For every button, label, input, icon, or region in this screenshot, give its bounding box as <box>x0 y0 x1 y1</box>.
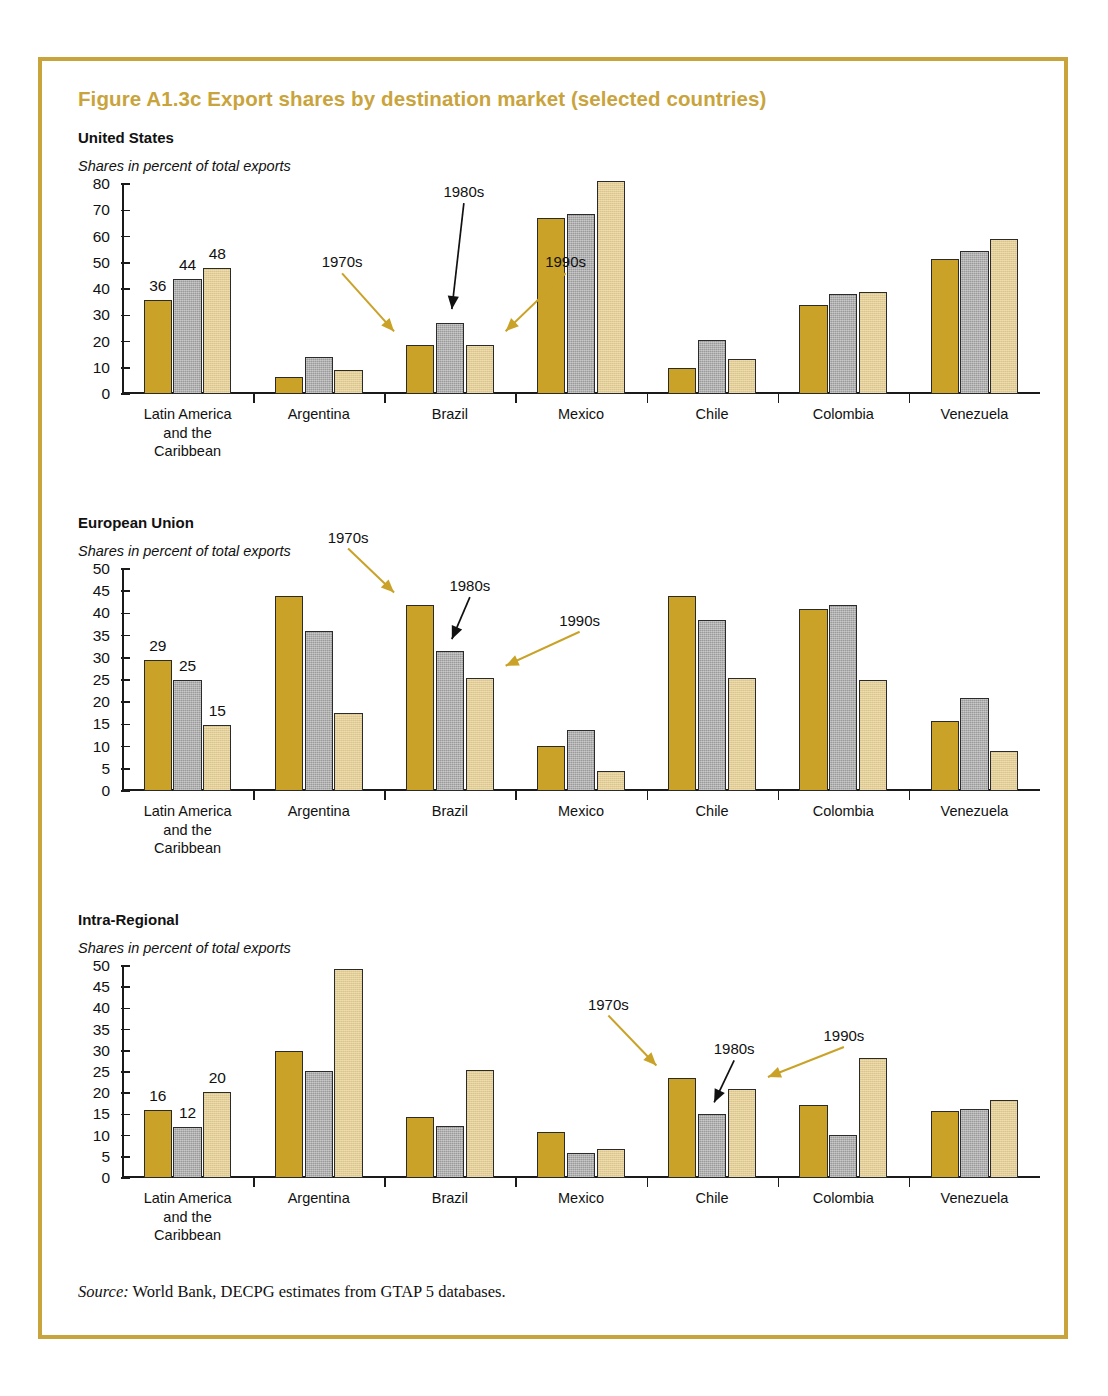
bar-1990s-venezuela <box>990 1100 1018 1178</box>
x-axis-group-separator <box>778 1178 780 1187</box>
x-axis-category-label: Venezuela <box>941 1189 1009 1208</box>
y-axis-tick <box>121 1029 130 1031</box>
x-axis-category-label: Colombia <box>813 802 874 821</box>
y-axis-tick <box>121 262 130 264</box>
bar-1970s-latin-america <box>144 1110 172 1178</box>
bar-1980s-argentina <box>305 357 333 394</box>
y-axis-tick-label: 20 <box>93 1084 110 1102</box>
bar-1970s-chile <box>668 596 696 791</box>
x-axis-category-label: Argentina <box>288 802 350 821</box>
chart-united-states: 364448 Latin America and the CaribbeanAr… <box>78 184 1040 394</box>
bar-1990s-chile <box>728 1089 756 1178</box>
bar-1990s-mexico <box>597 771 625 791</box>
x-axis-category-label: Latin America and the Caribbean <box>144 1189 232 1245</box>
x-axis-category-label: Venezuela <box>941 802 1009 821</box>
bar-1970s-brazil <box>406 345 434 394</box>
y-axis-tick-label: 40 <box>93 999 110 1017</box>
y-axis-tick <box>121 724 130 726</box>
bar-1990s-argentina <box>334 713 362 791</box>
y-axis-tick-label: 10 <box>93 738 110 756</box>
y-axis-tick-label: 35 <box>93 627 110 645</box>
x-axis-category-label: Mexico <box>558 802 604 821</box>
y-axis-tick-label: 0 <box>101 1169 110 1187</box>
x-axis-category-label: Mexico <box>558 1189 604 1208</box>
bar-1970s-chile <box>668 368 696 394</box>
x-axis-category-label: Latin America and the Caribbean <box>144 802 232 858</box>
source-text: World Bank, DECPG estimates from GTAP 5 … <box>129 1282 506 1301</box>
plot-area: 161220 Latin America and the CaribbeanAr… <box>122 966 1040 1178</box>
panel-title: Intra-Regional <box>78 911 1040 928</box>
bar-1970s-chile <box>668 1078 696 1178</box>
bar-1980s-brazil <box>436 1126 464 1178</box>
y-axis-tick <box>121 635 130 637</box>
x-axis-category-label: Mexico <box>558 405 604 424</box>
panel-united-states: United States Shares in percent of total… <box>78 129 1040 394</box>
plot-area: 292515 Latin America and the CaribbeanAr… <box>122 569 1040 791</box>
bar-1980s-latin-america <box>173 1127 201 1178</box>
annotation-1980s: 1980s <box>714 1040 755 1057</box>
figure-title: Figure A1.3c Export shares by destinatio… <box>78 87 1040 111</box>
bar-1970s-argentina <box>275 377 303 394</box>
y-axis-tick-label: 5 <box>101 1148 110 1166</box>
bar-1980s-brazil <box>436 651 464 791</box>
y-axis-tick <box>121 1156 130 1158</box>
y-axis-tick <box>121 393 130 395</box>
bar-1990s-venezuela <box>990 751 1018 791</box>
x-axis-group-separator <box>647 1178 649 1187</box>
y-axis-tick-label: 5 <box>101 760 110 778</box>
bar-1990s-latin-america <box>203 725 231 791</box>
annotation-1990s: 1990s <box>559 612 600 629</box>
bar-1990s-chile <box>728 359 756 394</box>
source-note: Source: World Bank, DECPG estimates from… <box>78 1282 1040 1302</box>
bar-1970s-colombia <box>799 609 827 791</box>
bar-1970s-colombia <box>799 1105 827 1178</box>
y-axis-tick-label: 45 <box>93 978 110 996</box>
y-axis-tick <box>121 1114 130 1116</box>
y-axis-tick <box>121 790 130 792</box>
panel-title: European Union <box>78 514 1040 531</box>
bar-1970s-venezuela <box>931 259 959 394</box>
annotation-1990s: 1990s <box>545 253 586 270</box>
bar-1990s-argentina <box>334 370 362 394</box>
x-axis-group-separator <box>515 394 517 403</box>
x-axis-group-separator <box>778 394 780 403</box>
bar-1970s-latin-america <box>144 300 172 395</box>
bar-1970s-brazil <box>406 1117 434 1178</box>
y-axis-tick-label: 40 <box>93 280 110 298</box>
bar-value-label: 29 <box>149 637 166 655</box>
x-axis-category-label: Brazil <box>432 1189 468 1208</box>
y-axis-tick-label: 30 <box>93 1042 110 1060</box>
panel-subtitle: Shares in percent of total exports <box>78 940 1040 956</box>
annotation-1970s: 1970s <box>328 529 369 546</box>
bar-1970s-mexico <box>537 1132 565 1178</box>
y-axis-tick-label: 15 <box>93 1105 110 1123</box>
chart-european-union: 292515 Latin America and the CaribbeanAr… <box>78 569 1040 791</box>
y-axis-tick-label: 25 <box>93 1063 110 1081</box>
bar-1980s-chile <box>698 1114 726 1178</box>
bar-value-label: 25 <box>179 657 196 675</box>
bar-1990s-latin-america <box>203 268 231 394</box>
bars-layer: 292515 <box>122 569 1040 791</box>
y-axis-tick-label: 25 <box>93 671 110 689</box>
x-axis-category-label: Venezuela <box>941 405 1009 424</box>
y-axis-tick <box>121 1050 130 1052</box>
x-axis-group-separator <box>647 791 649 800</box>
bar-1980s-venezuela <box>960 698 988 791</box>
bar-1990s-brazil <box>466 1070 494 1178</box>
y-axis-tick-label: 15 <box>93 715 110 733</box>
bar-value-label: 20 <box>209 1069 226 1087</box>
annotation-1990s: 1990s <box>823 1027 864 1044</box>
y-axis-tick-label: 40 <box>93 604 110 622</box>
y-axis-tick-label: 20 <box>93 693 110 711</box>
y-axis-tick <box>121 568 130 570</box>
panel-subtitle: Shares in percent of total exports <box>78 543 1040 559</box>
bar-value-label: 12 <box>179 1104 196 1122</box>
y-axis-tick <box>121 288 130 290</box>
bar-1980s-colombia <box>829 605 857 791</box>
bar-value-label: 44 <box>179 256 196 274</box>
x-axis-group-separator <box>253 1178 255 1187</box>
bar-1990s-chile <box>728 678 756 791</box>
y-axis-tick <box>121 236 130 238</box>
y-axis-tick <box>121 746 130 748</box>
y-axis-tick <box>121 183 130 185</box>
